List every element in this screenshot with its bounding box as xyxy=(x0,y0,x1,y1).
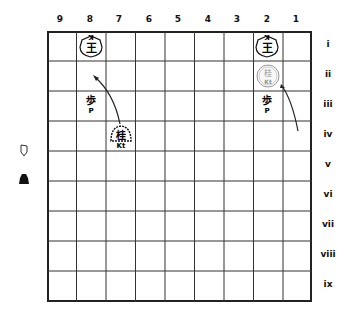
svg-text:王: 王 xyxy=(86,42,97,55)
white-player-icon xyxy=(21,145,27,156)
svg-text:P: P xyxy=(264,107,269,115)
board-overlay: 王 K 王 K 桂 Kt 歩 P 歩 P 桂 Kt xyxy=(0,0,348,316)
svg-text:Kt: Kt xyxy=(117,142,126,150)
king-piece-8i: 王 K xyxy=(80,33,102,57)
svg-text:王: 王 xyxy=(262,42,273,55)
svg-text:桂: 桂 xyxy=(115,129,126,141)
svg-text:桂: 桂 xyxy=(264,68,272,78)
knight-piece-7iv: 桂 Kt xyxy=(111,126,131,150)
svg-text:歩: 歩 xyxy=(262,94,272,106)
arrow-1iv-to-2ii xyxy=(282,86,298,131)
svg-text:Kt: Kt xyxy=(264,78,272,85)
pawn-piece-2iii: 歩 P xyxy=(262,94,272,115)
black-player-icon xyxy=(19,174,29,184)
pawn-piece-8iii: 歩 P xyxy=(86,94,96,115)
knight-ghost-2ii: 桂 Kt xyxy=(257,65,279,87)
svg-text:歩: 歩 xyxy=(86,94,96,106)
svg-text:K: K xyxy=(88,33,94,41)
svg-text:P: P xyxy=(88,107,93,115)
arrow-7iv-to-8ii xyxy=(95,77,120,124)
king-piece-2i: 王 K xyxy=(256,33,278,57)
svg-text:K: K xyxy=(264,33,270,41)
